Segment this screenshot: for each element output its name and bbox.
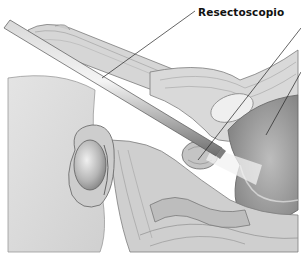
scrotum	[69, 125, 115, 207]
resectoscope-illustration	[0, 0, 301, 258]
resectoscope-label: Resectoscopio	[198, 6, 284, 18]
testis	[74, 140, 106, 190]
